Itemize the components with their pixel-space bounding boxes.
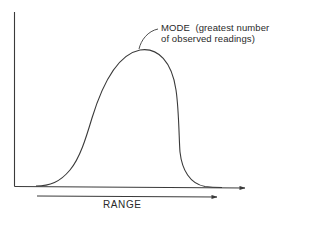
range-arrow [37, 196, 217, 197]
mode-annotation-line2: of observed readings) [161, 33, 269, 44]
mode-annotation-line1: MODE (greatest number [161, 22, 269, 33]
mode-annotation: MODE (greatest number of observed readin… [161, 22, 269, 44]
mode-leader-line [139, 29, 158, 49]
distribution-curve [36, 50, 222, 188]
range-label: RANGE [103, 199, 142, 210]
